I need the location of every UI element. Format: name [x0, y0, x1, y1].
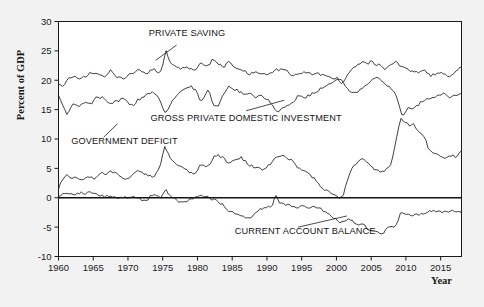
- series-annotation-label: GOVERNMENT DEFICIT: [71, 136, 178, 146]
- series-annotation-label: GROSS PRIVATE DOMESTIC INVESTMENT: [150, 113, 342, 123]
- x-tick-label: 2010: [395, 262, 416, 273]
- x-tick-label: 1985: [222, 262, 243, 273]
- x-tick-label: 2005: [361, 262, 382, 273]
- x-tick-label: 1995: [291, 262, 312, 273]
- y-tick-label: 15: [41, 104, 52, 115]
- series-annotation-label: CURRENT ACCOUNT BALANCE: [235, 226, 376, 236]
- x-tick-label: 1965: [83, 262, 104, 273]
- chart-figure: Percent of GDP Year 302520151050-5-10 19…: [0, 0, 484, 307]
- y-tick-label: 25: [41, 45, 52, 56]
- y-tick-label: 0: [46, 192, 51, 203]
- x-axis-title: Year: [431, 275, 452, 286]
- x-tick-label: 1975: [152, 262, 173, 273]
- x-tick-label: 2015: [430, 262, 451, 273]
- y-tick-label: 20: [41, 75, 52, 86]
- y-tick-label: 10: [41, 133, 52, 144]
- y-tick-label: -5: [43, 222, 51, 233]
- y-tick-label: 30: [41, 16, 52, 27]
- y-tick-label: 5: [46, 163, 51, 174]
- y-tick-label: -10: [38, 251, 52, 262]
- x-tick-label: 1970: [117, 262, 138, 273]
- x-tick-label: 1960: [48, 262, 69, 273]
- percent-of-gdp-line-chart: Percent of GDP Year 302520151050-5-10 19…: [0, 0, 484, 307]
- series-annotation-label: PRIVATE SAVING: [149, 28, 226, 38]
- x-tick-label: 2000: [326, 262, 347, 273]
- y-axis-title: Percent of GDP: [15, 49, 26, 120]
- x-tick-label: 1980: [187, 262, 208, 273]
- x-tick-label: 1990: [256, 262, 277, 273]
